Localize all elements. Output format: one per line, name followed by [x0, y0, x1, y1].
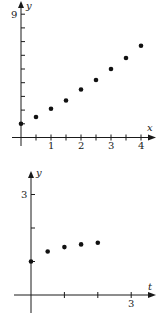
top-data-point	[94, 78, 99, 83]
top-data-point	[79, 87, 84, 92]
figure: y x 9 1 2 3 4 y t 3 3	[0, 0, 167, 316]
bottom-x-axis-arrow-icon	[148, 292, 156, 298]
bottom-y-tick-label-3: 3	[21, 189, 27, 200]
top-data-point	[109, 67, 114, 72]
bottom-data-point	[29, 259, 34, 264]
top-y-tick-label-9: 9	[11, 9, 17, 20]
top-data-point	[124, 56, 129, 61]
bottom-chart: y t 3 3	[14, 167, 156, 313]
bottom-data-point	[45, 249, 50, 254]
top-data-point	[49, 106, 54, 111]
top-chart: y x 9 1 2 3 4	[11, 0, 156, 151]
top-x-axis-label: x	[147, 122, 153, 133]
bottom-data-point	[79, 242, 84, 247]
bottom-data-point	[96, 240, 101, 245]
top-x-axis-arrow-icon	[148, 135, 156, 141]
top-data-points	[19, 43, 144, 126]
bottom-y-axis-arrow-icon	[28, 171, 34, 178]
bottom-data-point	[62, 245, 67, 250]
bottom-y-axis-label: y	[35, 167, 42, 178]
top-data-point	[139, 43, 144, 48]
top-data-point	[34, 115, 39, 120]
top-y-axis-label: y	[25, 0, 32, 11]
bottom-data-points	[29, 240, 100, 263]
top-data-point	[19, 122, 24, 127]
bottom-x-tick-label-3: 3	[128, 298, 134, 309]
top-x-tick-label-1: 1	[48, 140, 54, 151]
top-x-tick-label-3: 3	[108, 140, 114, 151]
bottom-x-axis-label: t	[148, 281, 153, 292]
top-y-axis-arrow-icon	[18, 1, 24, 8]
top-x-tick-label-4: 4	[138, 140, 144, 151]
top-data-point	[64, 98, 69, 103]
top-ticks	[21, 14, 141, 140]
top-x-tick-label-2: 2	[78, 140, 84, 151]
